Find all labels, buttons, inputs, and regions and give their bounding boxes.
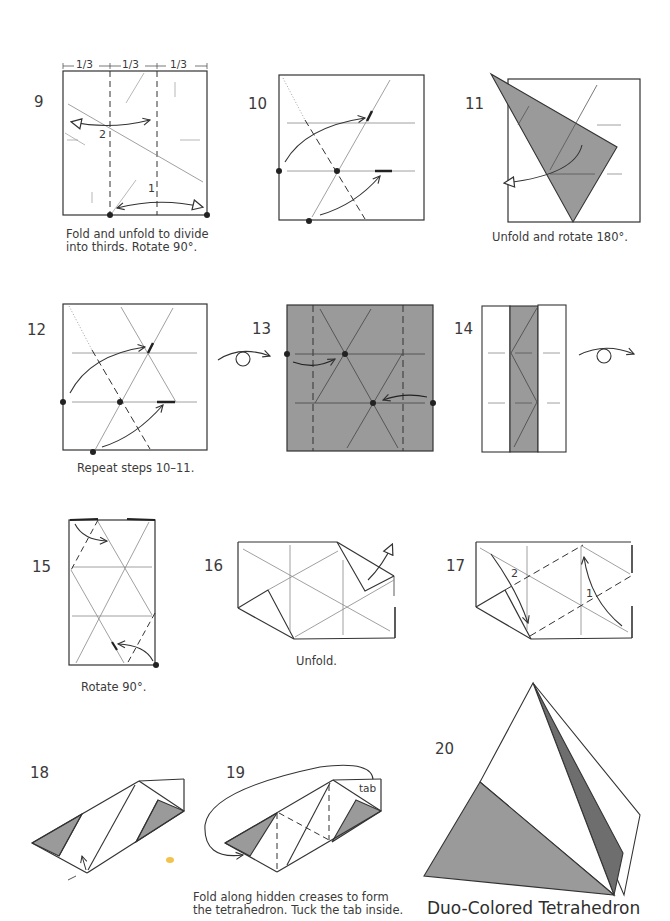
step-number-14: 14 — [454, 320, 473, 338]
step-14-diagram — [482, 305, 566, 452]
step-17-diagram — [476, 542, 632, 640]
sub-step-label-2: 2 — [99, 128, 106, 141]
step-12-caption: Repeat steps 10–11. — [77, 462, 194, 475]
step-16-diagram — [238, 542, 395, 640]
step-number-9: 9 — [34, 93, 44, 111]
step-13-diagram — [284, 305, 436, 451]
thirds-label-2: 1/3 — [122, 58, 139, 70]
step-number-12: 12 — [27, 321, 46, 339]
step-11-caption: Unfold and rotate 180°. — [492, 231, 628, 244]
step-12-diagram — [60, 304, 207, 455]
step-16-caption: Unfold. — [296, 655, 337, 668]
step-number-18: 18 — [30, 764, 49, 782]
step-9-diagram — [63, 63, 210, 218]
thirds-label-1: 1/3 — [76, 58, 93, 70]
turn-over-icon — [579, 348, 634, 363]
step-number-16: 16 — [204, 557, 223, 575]
step-15-caption: Rotate 90°. — [81, 681, 146, 694]
step-number-17: 17 — [446, 557, 465, 575]
step-19-caption-line2: the tetrahedron. Tuck the tab inside. — [193, 904, 403, 917]
sub-step-label-1: 1 — [148, 182, 155, 195]
sub-step-label-2: 2 — [511, 567, 518, 580]
tab-label: tab — [359, 782, 376, 794]
step-9-caption-line2: into thirds. Rotate 90°. — [66, 241, 209, 254]
step-11-diagram — [491, 74, 640, 222]
step-number-13: 13 — [252, 320, 271, 338]
step-number-19: 19 — [226, 764, 245, 782]
turn-over-icon — [218, 351, 270, 366]
step-15-diagram — [69, 519, 159, 668]
step-18-diagram — [32, 779, 184, 880]
step-number-20: 20 — [435, 740, 454, 758]
step-9-caption: Fold and unfold to divide into thirds. R… — [66, 228, 209, 254]
step-number-15: 15 — [32, 558, 51, 576]
step-20-diagram — [424, 683, 640, 895]
step-number-11: 11 — [465, 95, 484, 113]
model-title: Duo-Colored Tetrahedron — [427, 898, 640, 918]
step-10-diagram — [276, 75, 424, 224]
sub-step-label-1: 1 — [586, 587, 593, 600]
step-number-10: 10 — [248, 95, 267, 113]
thirds-label-3: 1/3 — [170, 58, 187, 70]
step-19-caption: Fold along hidden creases to form the te… — [193, 891, 403, 917]
